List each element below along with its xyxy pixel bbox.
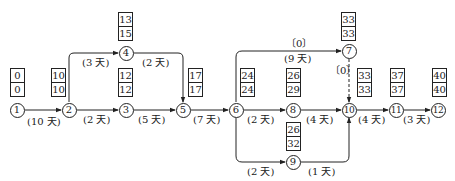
earliest-time: 13 [119, 13, 132, 26]
latest-time: 33 [358, 82, 371, 96]
activity-duration-label: (2 天) [83, 115, 110, 125]
time-box-node-3: 1212 [118, 68, 133, 97]
node-label: 8 [290, 105, 296, 115]
time-box-node-9: 2632 [286, 122, 301, 151]
latest-time: 0 [11, 82, 24, 96]
earliest-time: 33 [342, 13, 355, 26]
earliest-time: 12 [119, 69, 132, 82]
time-box-node-2: 1010 [51, 68, 66, 97]
node-label: 10 [344, 106, 354, 115]
activity-duration-label: (7 天) [193, 115, 220, 125]
latest-time: 33 [342, 26, 355, 40]
earliest-time: 17 [189, 69, 202, 82]
earliest-time: 24 [241, 69, 254, 82]
node-label: 12 [433, 106, 443, 115]
latest-time: 32 [287, 136, 300, 150]
latest-time: 40 [433, 82, 446, 96]
node-label: 4 [123, 48, 129, 58]
node-3: 3 [119, 103, 134, 118]
earliest-time: 33 [358, 69, 371, 82]
node-7: 7 [342, 44, 357, 59]
activity-duration-label: (2 天) [142, 58, 169, 68]
time-box-node-7: 3333 [341, 12, 356, 41]
activity-duration-label: (5 天) [138, 115, 165, 125]
node-label: 2 [66, 105, 72, 115]
node-1: 1 [10, 103, 25, 118]
activity-duration-label: (9 天) [284, 54, 311, 64]
time-box-node-12: 4040 [432, 68, 447, 97]
time-box-node-8: 2629 [286, 68, 301, 97]
earliest-time: 26 [287, 123, 300, 136]
node-label: 6 [233, 105, 239, 115]
latest-time: 10 [52, 82, 65, 96]
node-10: 10 [342, 103, 357, 118]
node-label: 3 [123, 105, 129, 115]
activity-duration-label: (3 天) [403, 115, 430, 125]
earliest-time: 40 [433, 69, 446, 82]
node-label: 7 [346, 46, 352, 56]
latest-time: 17 [189, 82, 202, 96]
earliest-time: 37 [391, 69, 404, 82]
earliest-time: 26 [287, 69, 300, 82]
node-11: 11 [389, 103, 404, 118]
activity-duration-label: (2 天) [247, 115, 274, 125]
time-box-node-6: 2424 [240, 68, 255, 97]
edges-layer [0, 0, 455, 181]
activity-duration-label: (3 天) [82, 58, 109, 68]
earliest-time: 0 [11, 69, 24, 82]
time-box-node-1: 00 [10, 68, 25, 97]
latest-time: 12 [119, 82, 132, 96]
activity-duration-label: (4 天) [358, 115, 385, 125]
earliest-time: 10 [52, 69, 65, 82]
time-box-node-5: 1717 [188, 68, 203, 97]
activity-duration-label: 〔0〕 [286, 39, 312, 49]
time-box-node-11: 3737 [390, 68, 405, 97]
node-label: 5 [180, 105, 186, 115]
node-9: 9 [286, 155, 301, 170]
node-6: 6 [229, 103, 244, 118]
activity-duration-label: 〔0〕 [330, 66, 356, 76]
node-4: 4 [119, 46, 134, 61]
latest-time: 29 [287, 82, 300, 96]
node-label: 9 [290, 157, 296, 167]
activity-duration-label: (10 天) [27, 117, 61, 127]
activity-duration-label: (4 天) [306, 115, 333, 125]
node-2: 2 [62, 103, 77, 118]
node-label: 11 [391, 106, 401, 115]
activity-duration-label: (1 天) [308, 167, 335, 177]
latest-time: 37 [391, 82, 404, 96]
node-8: 8 [286, 103, 301, 118]
latest-time: 15 [119, 26, 132, 40]
network-diagram: 123456789101112 001010121213151717242426… [0, 0, 455, 181]
latest-time: 24 [241, 82, 254, 96]
activity-duration-label: (2 天) [247, 167, 274, 177]
node-12: 12 [431, 103, 446, 118]
time-box-node-10: 3333 [357, 68, 372, 97]
node-label: 1 [14, 105, 20, 115]
node-5: 5 [176, 103, 191, 118]
time-box-node-4: 1315 [118, 12, 133, 41]
